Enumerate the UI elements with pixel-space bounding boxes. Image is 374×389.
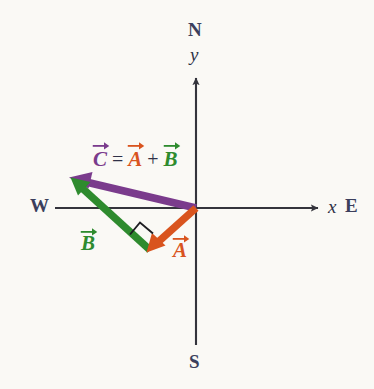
vector-b-letter: B bbox=[81, 231, 95, 255]
compass-label-west: W bbox=[30, 196, 50, 215]
equation-equals: = bbox=[112, 148, 123, 171]
y-axis-label: y bbox=[190, 45, 198, 64]
compass-label-north: N bbox=[188, 20, 202, 39]
equation-a-symbol: A bbox=[128, 147, 142, 172]
vector-a-letter: A bbox=[173, 238, 187, 262]
equation-c-symbol: C bbox=[93, 147, 107, 172]
compass-label-south: S bbox=[189, 352, 200, 371]
vector-b-symbol: B bbox=[81, 233, 95, 254]
equation-a-letter: A bbox=[128, 147, 142, 171]
diagram-canvas bbox=[0, 0, 374, 389]
vector-equation: C = A + B bbox=[93, 147, 178, 172]
vector-a-arrow bbox=[147, 208, 197, 253]
vector-a-label: A bbox=[173, 240, 187, 261]
equation-b-symbol: B bbox=[164, 147, 178, 172]
equation-c-letter: C bbox=[93, 147, 107, 171]
vector-addition-figure: N y S W x E C = A + bbox=[0, 0, 374, 389]
compass-label-east: E bbox=[345, 196, 358, 215]
x-axis-label: x bbox=[328, 197, 336, 216]
vector-b-label: B bbox=[81, 233, 95, 254]
equation-plus: + bbox=[147, 148, 158, 171]
equation-b-letter: B bbox=[164, 147, 178, 171]
vector-a-symbol: A bbox=[173, 240, 187, 261]
